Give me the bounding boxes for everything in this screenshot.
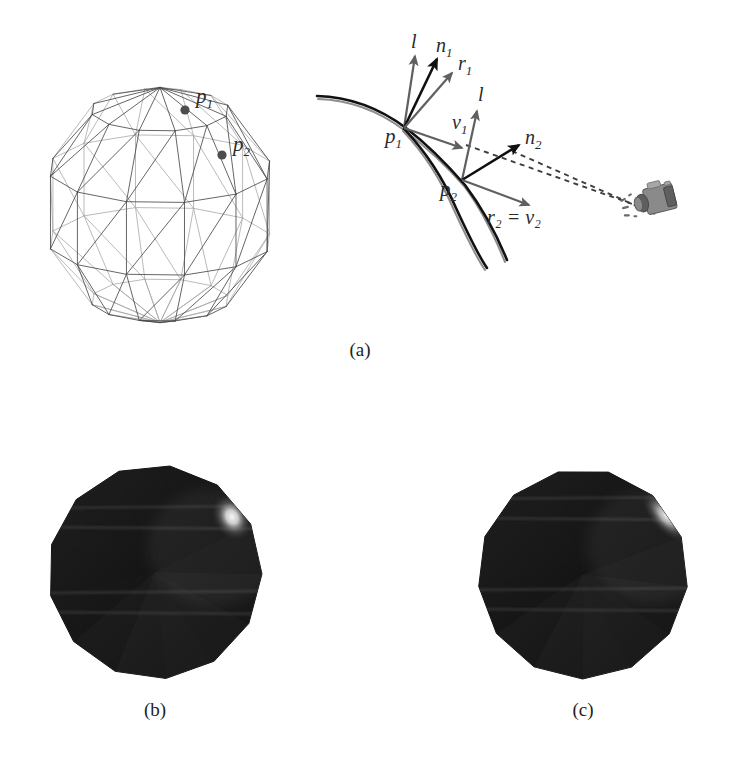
label-base: p xyxy=(383,124,396,148)
vector-label-l1: l xyxy=(411,30,417,52)
vector-label-v1: v1 xyxy=(452,111,467,137)
wireframe-edge xyxy=(53,115,92,159)
label-base: v xyxy=(452,111,461,133)
wireframe-edge-back xyxy=(160,280,181,323)
sphere-label-p1-sub: 1 xyxy=(207,96,214,111)
wireframe-edge-back xyxy=(136,208,145,280)
wireframe-edge xyxy=(207,116,226,125)
camera-icon xyxy=(617,178,677,221)
sphere-shading-c xyxy=(468,470,718,681)
wireframe-edge xyxy=(92,305,109,315)
wireframe-edge-back xyxy=(136,135,194,136)
shaded-sphere-phong-normals xyxy=(37,464,280,681)
label-base: r xyxy=(458,52,466,74)
wireframe-edge xyxy=(77,202,126,265)
vector-n2 xyxy=(462,145,519,180)
wireframe-edge xyxy=(77,265,109,315)
diagram-label-p2: p2 xyxy=(438,177,458,204)
label-base: n xyxy=(525,126,535,148)
wireframe-edge xyxy=(109,87,160,124)
camera-dashed-rays xyxy=(466,145,655,214)
wireframe-edge xyxy=(109,124,139,130)
true-surface-curve xyxy=(317,96,507,260)
sphere-seam-c-0 xyxy=(468,497,699,499)
label-sub: 2 xyxy=(535,137,542,152)
caption-panel-b: (b) xyxy=(144,699,166,721)
caption-panel-a: (a) xyxy=(349,339,370,361)
label-base: n xyxy=(436,34,446,56)
label-sub: 1 xyxy=(446,45,453,60)
wireframe-edge-back xyxy=(160,286,211,323)
vector-label-r1: r1 xyxy=(458,52,472,78)
wireframe-edge-back xyxy=(94,284,113,293)
reflection-diagram-group: ln1r1v1ln2r₂ = v₂p1p2 xyxy=(317,30,678,270)
surface-point-p1-marker xyxy=(180,105,189,114)
sphere-shading-b xyxy=(37,464,280,681)
wireframe-edge-back xyxy=(211,95,228,105)
wireframe-edge xyxy=(126,131,175,202)
label-sub: 1 xyxy=(396,136,403,151)
wireframe-edge-back xyxy=(84,143,135,207)
wireframe-edge xyxy=(175,131,184,203)
label-sub: 2 xyxy=(451,189,458,204)
wireframe-edge xyxy=(184,126,206,203)
wireframe-edge xyxy=(226,105,228,116)
vector-label-r2: r₂ = v₂ xyxy=(487,206,541,228)
sphere-label-p2-base: p xyxy=(231,132,244,156)
wireframe-edge-back xyxy=(92,294,94,305)
wireframe-edge-back xyxy=(194,208,243,218)
shaded-sphere-interpolated-reflection xyxy=(468,470,718,681)
vector-label-n2: n2 xyxy=(525,126,542,152)
wireframe-edge xyxy=(207,252,267,316)
label-sub: 1 xyxy=(461,122,468,137)
wireframe-edge-back xyxy=(181,280,211,286)
wireframe-edge-back xyxy=(136,208,181,280)
wireframe-edge xyxy=(77,124,109,192)
wireframe-edge xyxy=(226,252,267,307)
sphere-wireframe-group: p1 p2 xyxy=(50,84,269,323)
label-sub: 1 xyxy=(466,63,473,78)
wireframe-edge-back xyxy=(53,104,94,159)
wireframe-edge xyxy=(77,265,126,275)
wireframe-edge xyxy=(126,274,184,275)
wireframe-front-edges xyxy=(50,87,269,322)
vector-r2 xyxy=(462,180,529,205)
approximate-surface-curve xyxy=(318,99,505,262)
wireframe-edge xyxy=(109,315,139,321)
sphere-label-p2-sub: 2 xyxy=(244,144,251,159)
wireframe-edge xyxy=(126,202,184,274)
wireframe-edge-back xyxy=(181,208,194,279)
wireframe-edge-back xyxy=(84,216,145,279)
figure-canvas: p1 p2 ln1r1v1ln2r₂ = v₂p1p2 xyxy=(0,0,744,764)
vector-label-n1: n1 xyxy=(436,34,453,60)
caption-panel-c: (c) xyxy=(572,699,593,721)
sphere-label-p1: p1 xyxy=(194,84,213,111)
vector-label-l2: l xyxy=(478,83,484,105)
figure-root: p1 p2 ln1r1v1ln2r₂ = v₂p1p2 xyxy=(0,0,744,764)
label-base: p xyxy=(438,177,451,201)
wireframe-edge xyxy=(184,194,235,202)
wireframe-edge xyxy=(77,192,126,202)
wireframe-edge-back xyxy=(50,249,92,305)
wireframe-edge-back xyxy=(50,249,93,294)
surface-point-p2-marker xyxy=(217,150,226,159)
wireframe-edge xyxy=(92,115,109,125)
wireframe-edge-back xyxy=(84,208,135,216)
ray-r2-camera xyxy=(512,151,655,214)
wireframe-edge-back xyxy=(53,216,84,231)
diagram-label-p1: p1 xyxy=(383,124,402,151)
sphere-label-p1-base: p xyxy=(194,84,207,108)
rendered-spheres-group xyxy=(37,464,717,681)
